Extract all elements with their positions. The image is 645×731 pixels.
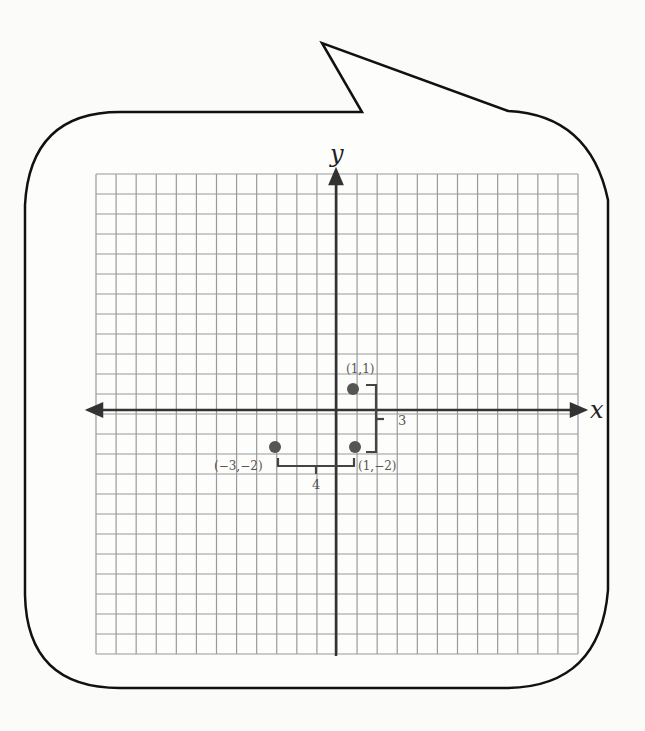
y-axis-label: y (329, 140, 344, 168)
point-neg3-neg2 (269, 441, 281, 453)
point-1-neg2 (349, 441, 361, 453)
distance-label-horizontal: 4 (312, 477, 320, 492)
point-label-neg3-neg2: (−3,−2) (214, 459, 263, 473)
point-1-1 (347, 383, 359, 395)
distance-label-vertical: 3 (398, 413, 406, 428)
x-axis-label: x (590, 396, 604, 424)
point-label-1-neg2: (1,−2) (358, 459, 397, 473)
speech-bubble-diagram: y x (1,1) (1,−2) (−3,−2) 3 4 (0, 0, 645, 731)
point-label-1-1: (1,1) (346, 362, 374, 376)
